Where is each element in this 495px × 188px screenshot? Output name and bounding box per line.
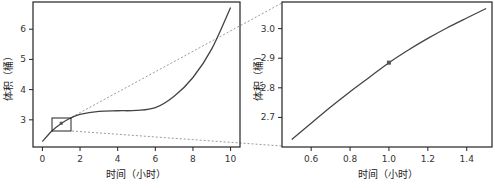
x-tick-label: 4	[115, 154, 121, 164]
x-tick-label: 2	[77, 154, 83, 164]
figure: 3456 0246810 时间（小时） 体积（桶） 2.72.82.93.0 0…	[0, 0, 495, 188]
x-tick-label: 10	[225, 154, 237, 164]
right-plot-frame	[282, 2, 492, 147]
right-chart: 2.72.82.93.0 0.60.81.01.21.4 时间（小时） 体积（桶…	[252, 2, 492, 180]
y-tick-label: 3	[20, 115, 26, 125]
y-tick-label: 3.0	[261, 24, 276, 34]
x-tick-label: 0.6	[304, 154, 319, 164]
connector-line-top	[72, 3, 282, 117]
right-x-axis-title: 时间（小时）	[358, 168, 418, 180]
highlight-point-zoomed	[387, 61, 391, 65]
right-x-axis: 0.60.81.01.21.4	[304, 147, 474, 164]
right-y-axis-title: 体积（桶）	[252, 51, 264, 101]
left-y-axis-title: 体积（桶）	[2, 51, 14, 101]
y-tick-label: 4	[20, 85, 26, 95]
x-tick-label: 0.8	[343, 154, 358, 164]
left-chart: 3456 0246810 时间（小时） 体积（桶）	[2, 2, 240, 180]
highlight-point	[60, 122, 63, 125]
x-tick-label: 6	[152, 154, 158, 164]
x-tick-label: 8	[190, 154, 196, 164]
right-data-line	[292, 9, 486, 140]
x-tick-label: 1.0	[382, 154, 397, 164]
y-tick-label: 2.7	[261, 112, 275, 122]
x-tick-label: 0	[40, 154, 46, 164]
left-plot-frame	[33, 2, 240, 147]
left-x-axis-title: 时间（小时）	[106, 168, 166, 180]
x-tick-label: 1.2	[421, 154, 435, 164]
left-y-axis: 3456	[20, 24, 33, 125]
x-tick-label: 1.4	[460, 154, 475, 164]
left-x-axis: 0246810	[40, 147, 237, 164]
connector-line-bottom	[72, 131, 282, 146]
y-tick-label: 5	[20, 54, 26, 64]
y-tick-label: 6	[20, 24, 26, 34]
